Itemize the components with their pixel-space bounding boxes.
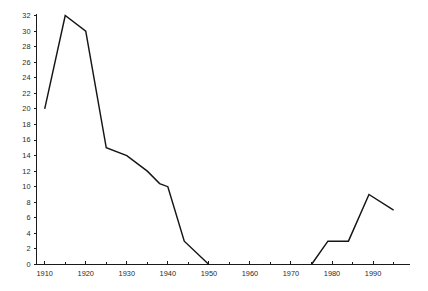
data-line-late-period bbox=[311, 194, 393, 264]
x-tick-label: 1910 bbox=[36, 269, 52, 278]
x-axis-group: 191019201930194019501960197019801990 bbox=[36, 261, 410, 278]
y-tick-label: 6 bbox=[26, 213, 30, 222]
x-tick-label: 1950 bbox=[201, 269, 217, 278]
data-line-early-period bbox=[45, 16, 209, 265]
y-tick-label: 32 bbox=[22, 11, 30, 20]
y-tick-label: 26 bbox=[22, 58, 30, 67]
x-tick-label: 1930 bbox=[119, 269, 135, 278]
y-axis-group: 02468101214161820222426283032 bbox=[22, 11, 36, 269]
y-tick-label: 30 bbox=[22, 27, 30, 36]
y-tick-label: 22 bbox=[22, 89, 30, 98]
y-tick-label: 10 bbox=[22, 182, 30, 191]
data-series-group bbox=[45, 16, 394, 265]
y-tick-label: 24 bbox=[22, 73, 30, 82]
x-tick-label: 1940 bbox=[160, 269, 176, 278]
y-tick-label: 18 bbox=[22, 120, 30, 129]
x-tick-label: 1980 bbox=[324, 269, 340, 278]
x-tick-label: 1970 bbox=[283, 269, 299, 278]
x-tick-label: 1920 bbox=[78, 269, 94, 278]
y-tick-label: 2 bbox=[26, 244, 30, 253]
y-tick-label: 12 bbox=[22, 167, 30, 176]
y-tick-label: 28 bbox=[22, 42, 30, 51]
chart-plot-area: 02468101214161820222426283032 1910192019… bbox=[0, 0, 428, 291]
y-tick-label: 0 bbox=[26, 260, 30, 269]
y-tick-label: 8 bbox=[26, 198, 30, 207]
x-tick-labels: 191019201930194019501960197019801990 bbox=[36, 269, 381, 278]
y-tick-label: 16 bbox=[22, 135, 30, 144]
line-chart: 02468101214161820222426283032 1910192019… bbox=[0, 0, 428, 291]
x-tick-label: 1990 bbox=[365, 269, 381, 278]
x-tick-label: 1960 bbox=[242, 269, 258, 278]
y-tick-label: 14 bbox=[22, 151, 30, 160]
y-tick-label: 4 bbox=[26, 229, 30, 238]
y-tick-labels: 02468101214161820222426283032 bbox=[22, 11, 30, 269]
y-tick-label: 20 bbox=[22, 104, 30, 113]
